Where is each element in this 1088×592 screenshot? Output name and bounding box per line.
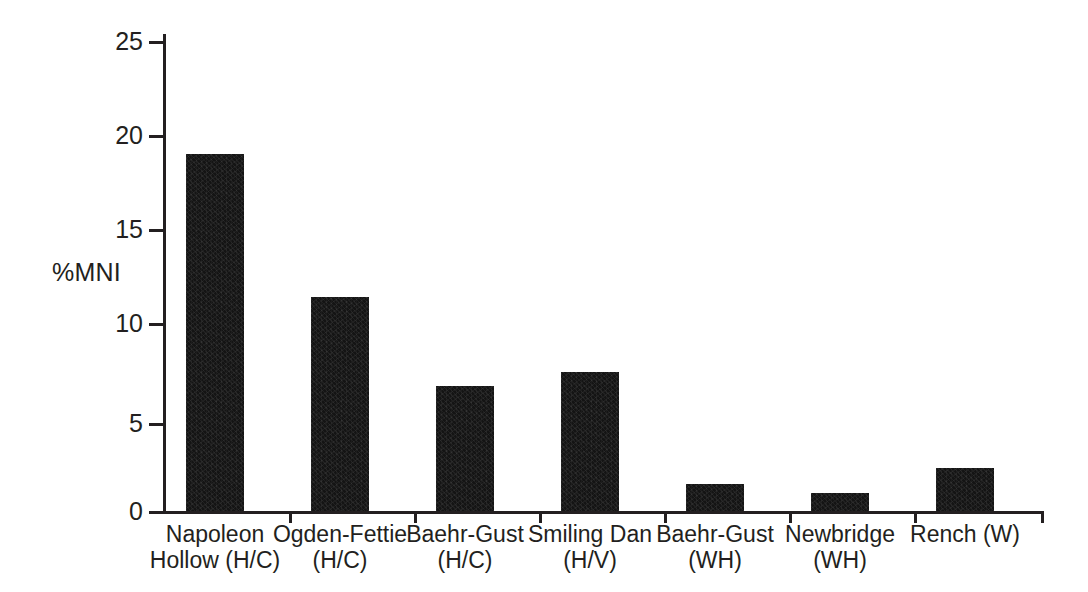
- y-tick-label-20: 20: [99, 123, 143, 148]
- y-tick-mark-5: [149, 423, 166, 426]
- bar-baehr-gust-wh: [686, 484, 744, 511]
- bar-smiling-dan: [561, 372, 619, 511]
- y-tick-label-25: 25: [99, 29, 143, 54]
- x-category-label-line2: (WH): [750, 547, 930, 573]
- bar-rench: [936, 468, 994, 511]
- y-tick-mark-25: [149, 41, 166, 44]
- y-tick-label-15: 15: [99, 217, 143, 242]
- bar-baehr-gust-hc: [436, 386, 494, 511]
- x-category-label-rench: Rench (W): [875, 521, 1055, 547]
- bar-napoleon-hollow: [186, 154, 244, 511]
- y-tick-label-5: 5: [99, 411, 143, 436]
- y-tick-mark-15: [149, 229, 166, 232]
- bar-chart: %MNI 25 20 15 10 5 0 Napoleon Hollow (H/…: [0, 0, 1088, 592]
- y-axis-title: %MNI: [52, 258, 121, 287]
- y-tick-mark-10: [149, 323, 166, 326]
- y-tick-label-10: 10: [99, 311, 143, 336]
- y-axis-line: [163, 34, 166, 513]
- bar-ogden-fettie: [311, 297, 369, 511]
- y-tick-mark-20: [149, 135, 166, 138]
- x-axis-line: [163, 511, 1044, 514]
- bar-newbridge: [811, 493, 869, 511]
- x-category-label-line1: Rench (W): [910, 521, 1020, 547]
